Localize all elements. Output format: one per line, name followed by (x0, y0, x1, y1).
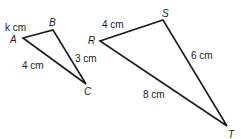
similar-triangles-diagram: A B C k cm 3 cm 4 cm R S T 4 cm 6 cm 8 c… (0, 0, 241, 139)
vertex-label-s: S (162, 8, 169, 19)
side-label-rt: 8 cm (143, 89, 165, 100)
vertex-label-t: T (228, 129, 235, 139)
vertex-label-b: B (49, 17, 56, 28)
vertex-label-c: C (84, 86, 92, 97)
vertex-label-r: R (88, 35, 95, 46)
side-label-rs: 4 cm (102, 19, 124, 30)
vertex-label-a: A (9, 34, 17, 45)
side-label-st: 6 cm (191, 50, 213, 61)
triangle-rst-outline (100, 20, 227, 126)
side-label-ab: k cm (5, 22, 26, 33)
side-label-bc: 3 cm (75, 53, 97, 64)
side-label-ac: 4 cm (22, 60, 44, 71)
triangle-abc: A B C k cm 3 cm 4 cm (5, 17, 97, 97)
triangle-rst: R S T 4 cm 6 cm 8 cm (88, 8, 235, 139)
